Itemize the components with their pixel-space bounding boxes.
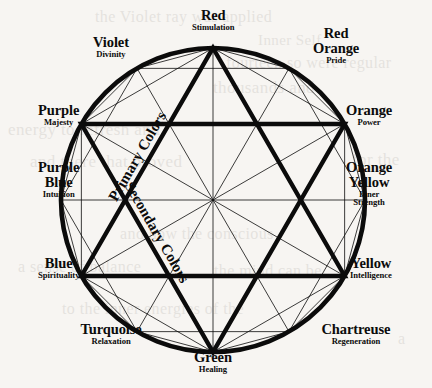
color-name: Violet xyxy=(93,35,129,50)
color-name: Purple xyxy=(38,103,79,118)
color-meaning: Majesty xyxy=(38,118,79,127)
wheel-label-purple: PurpleMajesty xyxy=(38,103,79,127)
wheel-label-purple-blue: PurpleBlueIntuition xyxy=(38,160,79,198)
wheel-label-chartreuse: ChartreuseRegeneration xyxy=(322,322,391,346)
color-name: Green xyxy=(194,350,232,365)
color-name-second-word: Blue xyxy=(38,175,79,190)
wheel-label-red: RedStimulation xyxy=(192,8,234,32)
color-name: Red xyxy=(313,26,359,41)
color-meaning: Regeneration xyxy=(322,337,391,346)
color-meaning: Spirituality xyxy=(38,271,79,280)
wheel-label-orange-yellow: OrangeYellowInnerStrength xyxy=(346,160,392,207)
color-meaning: Power xyxy=(346,118,392,127)
color-wheel-diagram: the Violet ray was appliedInner Selffour… xyxy=(0,0,432,388)
color-name: Purple xyxy=(38,160,79,175)
color-name-second-word: Yellow xyxy=(346,175,392,190)
color-meaning: Intelligence xyxy=(350,271,392,280)
color-meaning: Divinity xyxy=(93,50,129,59)
wheel-label-green: GreenHealing xyxy=(194,350,232,374)
color-name: Chartreuse xyxy=(322,322,391,337)
color-name: Orange xyxy=(346,103,392,118)
color-name-second-word: Orange xyxy=(313,41,359,56)
wheel-label-red-orange: RedOrangePride xyxy=(313,26,359,64)
color-name: Turquoise xyxy=(81,322,142,337)
wheel-label-yellow: YellowIntelligence xyxy=(350,256,392,280)
color-meaning: Intuition xyxy=(38,190,79,199)
secondary-colors-caption: Secondary Colors xyxy=(122,179,193,286)
color-meaning: InnerStrength xyxy=(346,190,392,208)
color-meaning: Healing xyxy=(194,365,232,374)
color-meaning: Stimulation xyxy=(192,23,234,32)
color-name: Blue xyxy=(38,256,79,271)
color-name: Yellow xyxy=(350,256,392,271)
wheel-label-orange: OrangePower xyxy=(346,103,392,127)
wheel-label-turquoise: TurquoiseRelaxation xyxy=(81,322,142,346)
color-name: Red xyxy=(192,8,234,23)
color-meaning: Pride xyxy=(313,56,359,65)
color-meaning: Relaxation xyxy=(81,337,142,346)
wheel-label-blue: BlueSpirituality xyxy=(38,256,79,280)
color-name: Orange xyxy=(346,160,392,175)
wheel-label-violet: VioletDivinity xyxy=(93,35,129,59)
